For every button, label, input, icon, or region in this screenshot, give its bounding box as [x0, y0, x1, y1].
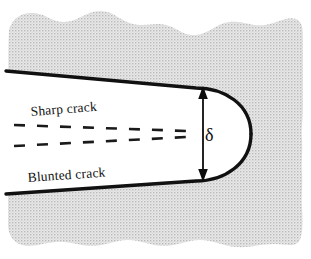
crack-tip-diagram: Sharp crack Blunted crack δ [0, 0, 311, 259]
figure-container: Sharp crack Blunted crack δ [0, 0, 311, 259]
delta-symbol-label: δ [205, 125, 213, 145]
